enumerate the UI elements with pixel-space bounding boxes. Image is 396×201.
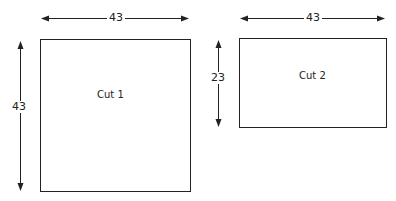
cut-2-width-label: 43 [304, 12, 322, 24]
cut-1-rectangle [41, 40, 191, 192]
cut-2-rectangle [240, 39, 387, 128]
cut-1-width-label: 43 [107, 12, 125, 24]
diagram-canvas [0, 0, 396, 201]
cut-1-label: Cut 1 [97, 89, 124, 100]
cut-2-label: Cut 2 [299, 70, 326, 81]
cut-1-height-label: 43 [10, 101, 28, 113]
cut-2-height-label: 23 [209, 72, 227, 84]
